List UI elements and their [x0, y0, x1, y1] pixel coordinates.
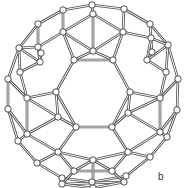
atom-node: [109, 168, 115, 174]
bond: [93, 14, 123, 32]
atom-node: [125, 149, 131, 155]
atom-node: [5, 76, 11, 82]
atom-node: [15, 138, 21, 144]
atom-node: [110, 57, 116, 63]
atom-node: [123, 173, 129, 179]
atom-node: [149, 49, 155, 55]
atom-node: [125, 110, 131, 116]
atom-node: [71, 168, 77, 174]
bond: [128, 98, 160, 113]
bond: [130, 92, 160, 98]
atom-node: [73, 124, 79, 130]
cage-structure-diagram: [0, 0, 185, 188]
atom-node: [34, 160, 40, 166]
bond: [19, 24, 38, 48]
bond: [38, 32, 63, 47]
atom-node: [89, 179, 95, 185]
bond: [27, 98, 58, 117]
atom-node: [120, 29, 126, 35]
bond: [27, 117, 58, 134]
atom-node: [90, 157, 96, 163]
atom-node: [148, 35, 154, 41]
atom-node: [90, 48, 96, 54]
atom-node: [164, 134, 170, 140]
atom-node: [163, 69, 169, 75]
bond: [123, 32, 151, 38]
atom-node: [55, 114, 61, 120]
atom-node: [144, 57, 150, 63]
atom-node: [109, 124, 115, 130]
bond: [92, 5, 124, 9]
atom-node: [90, 11, 96, 17]
bond: [63, 14, 93, 32]
atom-node: [174, 107, 180, 113]
bond: [18, 141, 37, 163]
bond: [168, 45, 178, 79]
bond: [27, 92, 56, 98]
atom-node: [121, 6, 127, 12]
atom-node: [55, 149, 61, 155]
atom-node: [89, 2, 95, 8]
atom-node: [17, 69, 23, 75]
atom-node: [127, 89, 133, 95]
atom-node: [157, 129, 163, 135]
atom-node: [121, 179, 127, 185]
atom-node: [147, 154, 153, 160]
atom-node: [35, 21, 41, 27]
atom-node: [60, 29, 66, 35]
bond: [58, 127, 76, 152]
atom-node: [59, 181, 65, 187]
atom-node: [38, 50, 44, 56]
atom-node: [157, 95, 163, 101]
atom-node: [175, 76, 181, 82]
atom-node: [53, 89, 59, 95]
atom-node: [71, 57, 77, 63]
figure-panel-label: b: [158, 171, 164, 182]
atom-node: [165, 42, 171, 48]
bond: [160, 110, 177, 132]
atom-node: [16, 45, 22, 51]
bond: [126, 157, 150, 176]
bond: [124, 9, 150, 24]
bond: [63, 5, 92, 10]
atom-node: [35, 44, 41, 50]
atom-node: [37, 59, 43, 65]
bond: [150, 137, 167, 157]
atom-node: [60, 7, 66, 13]
bond: [56, 60, 74, 92]
atom-node: [24, 131, 30, 137]
atom-node: [5, 106, 11, 112]
atom-node: [24, 95, 30, 101]
bond: [38, 10, 63, 24]
bond: [112, 127, 128, 152]
bond: [27, 134, 58, 152]
atom-node: [147, 21, 153, 27]
bond: [113, 60, 130, 92]
bond: [37, 163, 62, 178]
atom-node: [90, 185, 96, 188]
bond: [128, 113, 160, 132]
atom-node: [59, 175, 65, 181]
